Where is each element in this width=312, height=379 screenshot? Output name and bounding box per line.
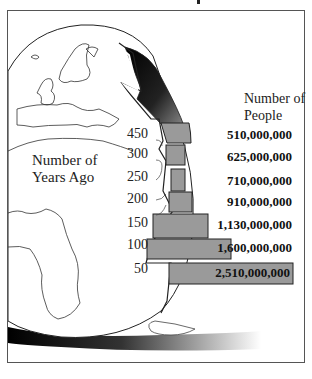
population-value: 910,000,000 xyxy=(182,194,292,210)
population-value: 1,130,000,000 xyxy=(182,217,292,233)
year-label: 150 xyxy=(108,215,148,231)
year-label: 100 xyxy=(108,237,148,253)
population-value: 510,000,000 xyxy=(182,127,292,143)
population-value: 625,000,000 xyxy=(182,149,292,165)
year-label: 200 xyxy=(108,191,148,207)
people-header-line2: People xyxy=(244,107,305,124)
people-axis-title: Number of People xyxy=(244,90,305,124)
population-value: 1,600,000,000 xyxy=(182,240,292,256)
year-label: 50 xyxy=(108,261,148,277)
people-header-line1: Number of xyxy=(244,90,305,107)
year-label: 250 xyxy=(108,169,148,185)
years-header-line1: Number of xyxy=(32,152,97,169)
title-fragment xyxy=(197,0,200,4)
years-axis-title: Number of Years Ago xyxy=(32,152,97,186)
years-header-line2: Years Ago xyxy=(32,169,97,186)
population-value: 710,000,000 xyxy=(182,173,292,189)
population-value: 2,510,000,000 xyxy=(180,265,290,281)
year-label: 300 xyxy=(108,146,148,162)
year-label: 450 xyxy=(108,126,148,142)
